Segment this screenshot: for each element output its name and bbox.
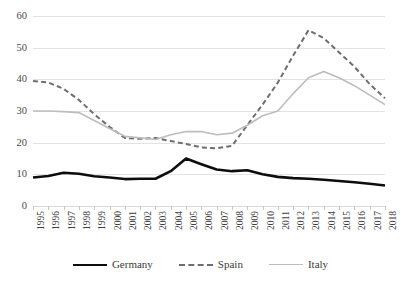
x-axis-labels: 1995199619971998199920002001200220032004… (33, 211, 385, 255)
x-tick-label: 2011 (282, 211, 292, 230)
x-tick (64, 206, 65, 210)
x-tick-label: 2000 (114, 211, 124, 230)
x-tick (125, 206, 126, 210)
y-tick-label: 20 (17, 137, 28, 148)
legend-item-germany[interactable]: Germany (73, 259, 153, 270)
y-tick-label: 30 (17, 106, 28, 117)
legend-label-italy: Italy (308, 259, 328, 270)
x-tick-label: 1996 (52, 211, 62, 230)
x-tick-label: 1998 (83, 211, 93, 230)
x-tick (33, 206, 34, 210)
x-tick (171, 206, 172, 210)
plot-area (33, 16, 385, 206)
x-tick (308, 206, 309, 210)
legend-swatch-germany-icon (73, 264, 107, 266)
x-tick-label: 2008 (236, 211, 246, 230)
x-tick-label: 1995 (37, 211, 47, 230)
x-tick-label: 2005 (190, 211, 200, 230)
x-tick-label: 2006 (205, 211, 215, 230)
x-tick-label: 2009 (251, 211, 261, 230)
x-tick (201, 206, 202, 210)
series-line-spain (33, 30, 385, 148)
x-tick-label: 1999 (98, 211, 108, 230)
legend-swatch-italy-icon (269, 264, 303, 265)
y-tick-label: 40 (17, 74, 28, 85)
x-tick-label: 2004 (175, 211, 185, 230)
x-tick-label: 2002 (144, 211, 154, 230)
x-tick (217, 206, 218, 210)
legend-item-spain[interactable]: Spain (179, 259, 243, 270)
y-tick-label: 60 (17, 11, 28, 22)
legend-label-spain: Spain (218, 259, 243, 270)
legend-item-italy[interactable]: Italy (269, 259, 328, 270)
x-tick (110, 206, 111, 210)
line-chart: 0102030405060 19951996199719981999200020… (0, 0, 401, 283)
x-tick-label: 2001 (129, 211, 139, 230)
y-axis-labels: 0102030405060 (0, 16, 31, 206)
x-tick (263, 206, 264, 210)
legend-label-germany: Germany (112, 259, 153, 270)
x-tick (293, 206, 294, 210)
chart-legend: Germany Spain Italy (0, 259, 401, 270)
x-tick-label: 2010 (267, 211, 277, 230)
legend-swatch-spain-icon (179, 264, 213, 266)
x-tick (79, 206, 80, 210)
x-tick-label: 2016 (358, 211, 368, 230)
y-tick-label: 0 (22, 201, 27, 212)
x-tick (140, 206, 141, 210)
x-tick (354, 206, 355, 210)
series-lines (33, 16, 385, 206)
x-tick (339, 206, 340, 210)
x-tick (155, 206, 156, 210)
x-tick (385, 206, 386, 210)
series-line-germany (33, 159, 385, 186)
x-tick (94, 206, 95, 210)
x-tick (48, 206, 49, 210)
y-tick-label: 50 (17, 42, 28, 53)
x-tick (186, 206, 187, 210)
x-tick-label: 1997 (68, 211, 78, 230)
x-tick (324, 206, 325, 210)
y-tick-label: 10 (17, 169, 28, 180)
x-tick (247, 206, 248, 210)
x-tick-label: 2017 (374, 211, 384, 230)
x-tick (232, 206, 233, 210)
x-tick-label: 2003 (159, 211, 169, 230)
x-tick (370, 206, 371, 210)
x-tick-label: 2018 (389, 211, 399, 230)
x-tick-label: 2014 (328, 211, 338, 230)
x-tick-label: 2007 (221, 211, 231, 230)
x-tick-label: 2013 (312, 211, 322, 230)
x-tick (278, 206, 279, 210)
x-tick-label: 2015 (343, 211, 353, 230)
x-tick-label: 2012 (297, 211, 307, 230)
